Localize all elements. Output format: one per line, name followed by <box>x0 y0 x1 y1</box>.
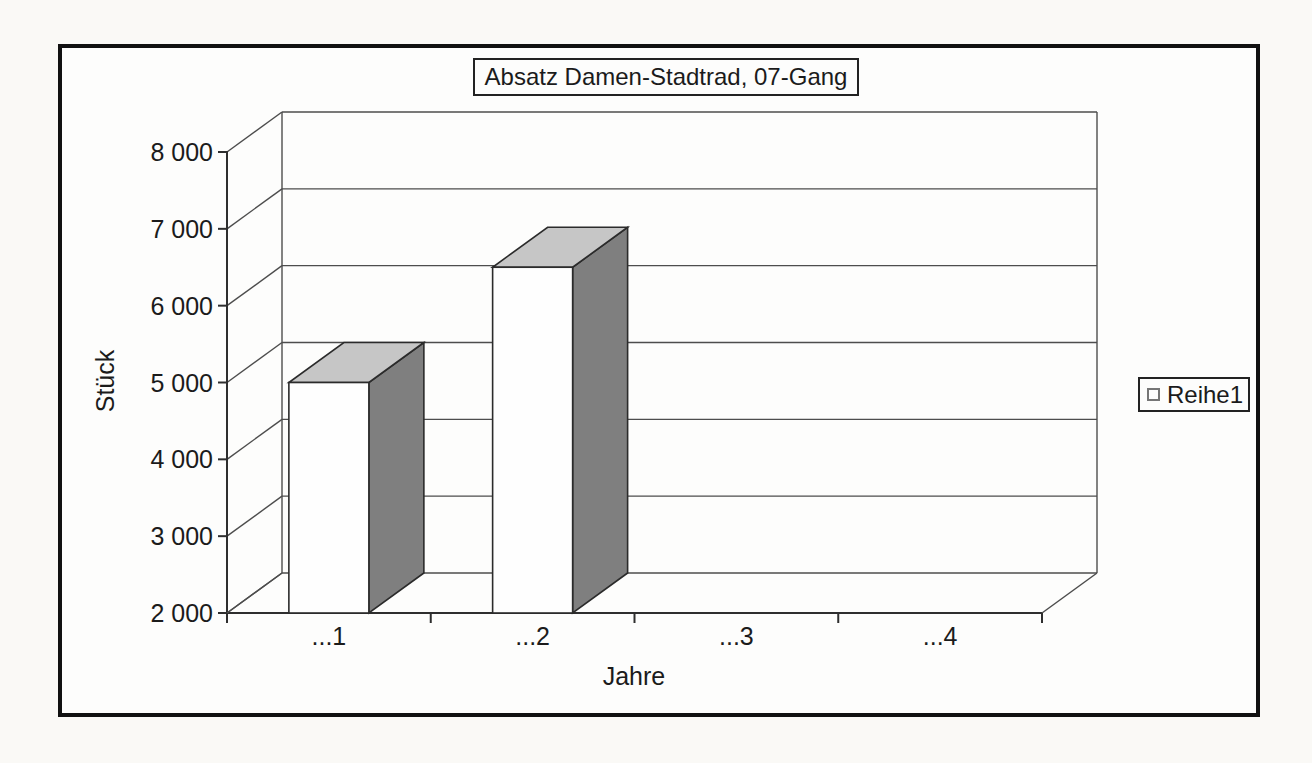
legend-series-marker <box>1147 388 1160 401</box>
y-tick-label: 4 000 <box>150 445 213 473</box>
floor-left-edge <box>227 573 282 613</box>
scanned-page: 2 0003 0004 0005 0006 0007 0008 000...1.… <box>0 0 1312 763</box>
floor-right-edge <box>1042 573 1097 613</box>
plot-area-3d: 2 0003 0004 0005 0006 0007 0008 000...1.… <box>0 0 1312 763</box>
bar-side-face <box>369 343 424 614</box>
chart-title-box: Absatz Damen-Stadtrad, 07-Gang <box>473 58 859 96</box>
category-label: ...1 <box>312 622 347 650</box>
bar-front-face <box>289 383 369 614</box>
y-tick-label: 6 000 <box>150 292 213 320</box>
side-wall-gridline <box>227 343 282 383</box>
side-wall-gridline <box>227 419 282 459</box>
side-wall-gridline <box>227 112 282 152</box>
x-axis-title: Jahre <box>574 662 694 688</box>
y-tick-label: 3 000 <box>150 522 213 550</box>
legend-series-label: Reihe1 <box>1167 381 1243 409</box>
side-wall-gridline <box>227 266 282 306</box>
y-tick-label: 5 000 <box>150 369 213 397</box>
chart-title: Absatz Damen-Stadtrad, 07-Gang <box>485 63 848 91</box>
category-label: ...2 <box>515 622 550 650</box>
bar-front-face <box>493 267 573 613</box>
y-tick-label: 7 000 <box>150 215 213 243</box>
legend: Reihe1 <box>1138 377 1250 412</box>
y-tick-label: 2 000 <box>150 599 213 627</box>
y-tick-label: 8 000 <box>150 138 213 166</box>
category-label: ...4 <box>923 622 958 650</box>
side-wall-gridline <box>227 496 282 536</box>
y-axis-title: Stück <box>91 321 117 441</box>
category-label: ...3 <box>719 622 754 650</box>
bar-side-face <box>573 227 628 613</box>
side-wall-gridline <box>227 189 282 229</box>
